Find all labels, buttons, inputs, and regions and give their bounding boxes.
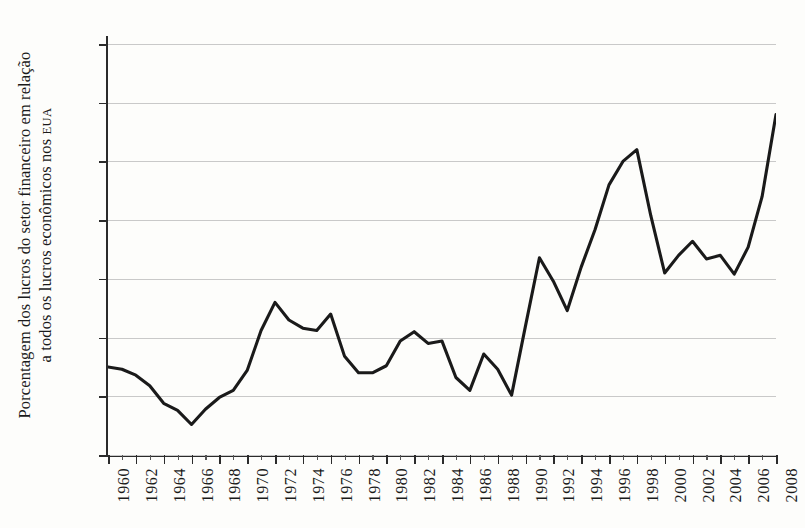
x-tick-mark-1984 (442, 455, 444, 464)
y-axis-title-country-abbrev: EUA (40, 108, 54, 135)
y-tick-mark-35 (99, 161, 107, 163)
x-tick-label-1962: 1962 (143, 468, 161, 502)
x-tick-label-1980: 1980 (393, 468, 411, 502)
x-tick-mark-1998 (637, 455, 639, 464)
x-tick-mark-2006 (748, 455, 750, 464)
x-tick-mark-1965 (178, 455, 179, 460)
x-tick-label-2002: 2002 (700, 468, 718, 502)
x-tick-mark-1992 (553, 455, 555, 464)
x-tick-label-1988: 1988 (505, 468, 523, 502)
x-tick-label-1972: 1972 (282, 468, 300, 502)
x-tick-mark-1996 (609, 455, 611, 464)
x-tick-mark-1993 (567, 455, 568, 460)
x-tick-mark-1966 (192, 455, 194, 464)
x-tick-mark-1967 (205, 455, 206, 460)
x-tick-mark-1981 (400, 455, 401, 460)
x-tick-mark-1975 (317, 455, 318, 460)
x-tick-mark-2003 (706, 455, 707, 460)
x-tick-label-1960: 1960 (115, 468, 133, 502)
x-tick-mark-2005 (734, 455, 735, 460)
x-tick-mark-1983 (428, 455, 429, 460)
x-tick-label-1998: 1998 (644, 468, 662, 502)
x-tick-mark-1997 (623, 455, 624, 460)
x-tick-mark-1973 (289, 455, 290, 460)
data-line-series (108, 44, 776, 455)
y-axis-title-line-2-main: a todos os lucros econômicos nos (36, 135, 55, 363)
x-tick-mark-1969 (233, 455, 234, 460)
x-tick-mark-1990 (526, 455, 528, 464)
x-tick-mark-2000 (665, 455, 667, 464)
x-tick-mark-1970 (247, 455, 249, 464)
x-tick-mark-1963 (150, 455, 151, 460)
x-tick-label-1992: 1992 (560, 468, 578, 502)
x-tick-mark-1995 (595, 455, 596, 460)
x-tick-mark-1986 (470, 455, 472, 464)
x-tick-mark-1974 (303, 455, 305, 464)
x-tick-mark-1987 (484, 455, 485, 460)
x-tick-mark-2004 (720, 455, 722, 464)
y-tick-mark-25 (99, 279, 107, 281)
x-tick-mark-1980 (386, 455, 388, 464)
x-tick-mark-1989 (512, 455, 513, 460)
x-tick-mark-1979 (372, 455, 373, 460)
y-axis-title: Porcentagem dos lucros do setor financei… (0, 0, 70, 470)
x-tick-mark-1961 (122, 455, 123, 460)
x-tick-mark-1964 (164, 455, 166, 464)
x-tick-label-1986: 1986 (477, 468, 495, 502)
y-axis-title-line-1: Porcentagem dos lucros do setor financei… (14, 52, 35, 419)
x-tick-mark-1985 (456, 455, 457, 460)
x-tick-label-1984: 1984 (449, 468, 467, 502)
y-tick-mark-30 (99, 220, 107, 222)
x-tick-mark-1976 (331, 455, 333, 464)
y-tick-mark-15 (99, 396, 107, 398)
x-tick-label-1976: 1976 (338, 468, 356, 502)
plot-area: 1015202530354045 19601962196419661968197… (108, 44, 776, 455)
x-tick-label-1994: 1994 (588, 468, 606, 502)
y-tick-mark-45 (99, 44, 107, 46)
x-tick-mark-2007 (762, 455, 763, 460)
x-tick-mark-1977 (345, 455, 346, 460)
x-tick-mark-2002 (693, 455, 695, 464)
x-tick-label-1970: 1970 (254, 468, 272, 502)
x-tick-label-1982: 1982 (421, 468, 439, 502)
x-tick-mark-2008 (776, 455, 778, 464)
x-tick-mark-1988 (498, 455, 500, 464)
x-tick-label-1978: 1978 (366, 468, 384, 502)
x-tick-mark-1978 (359, 455, 361, 464)
x-tick-mark-1972 (275, 455, 277, 464)
x-tick-label-2008: 2008 (783, 468, 801, 502)
x-tick-label-2004: 2004 (727, 468, 745, 502)
x-tick-mark-1982 (414, 455, 416, 464)
x-tick-mark-1991 (539, 455, 540, 460)
x-tick-label-2000: 2000 (672, 468, 690, 502)
x-tick-mark-1968 (219, 455, 221, 464)
y-tick-mark-10 (99, 455, 107, 457)
x-tick-label-1996: 1996 (616, 468, 634, 502)
x-tick-label-1974: 1974 (310, 468, 328, 502)
x-tick-label-2006: 2006 (755, 468, 773, 502)
x-tick-label-1990: 1990 (533, 468, 551, 502)
x-tick-label-1968: 1968 (226, 468, 244, 502)
x-tick-label-1966: 1966 (199, 468, 217, 502)
x-tick-mark-1971 (261, 455, 262, 460)
x-tick-mark-2001 (679, 455, 680, 460)
x-tick-mark-1962 (136, 455, 138, 464)
y-tick-mark-20 (99, 338, 107, 340)
financial-profits-share-chart: Porcentagem dos lucros do setor financei… (0, 0, 805, 528)
y-tick-mark-40 (99, 103, 107, 105)
x-tick-mark-1994 (581, 455, 583, 464)
x-tick-label-1964: 1964 (171, 468, 189, 502)
x-tick-mark-1960 (108, 455, 110, 464)
x-tick-mark-1999 (651, 455, 652, 460)
financial-profits-line (108, 114, 776, 424)
y-axis-title-line-2: a todos os lucros econômicos nos EUA (35, 52, 56, 419)
